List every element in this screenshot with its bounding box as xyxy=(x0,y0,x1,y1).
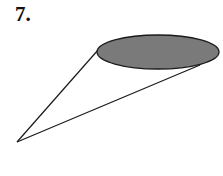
cone-edge-upper xyxy=(17,50,98,142)
cone-edge-lower xyxy=(17,65,200,142)
cone-figure xyxy=(0,0,223,176)
cone-base-ellipse xyxy=(97,35,219,69)
